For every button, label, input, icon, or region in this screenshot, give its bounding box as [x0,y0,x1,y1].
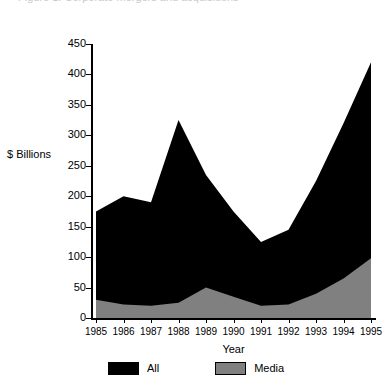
y-axis-tick-label: 100 [26,251,86,262]
y-axis-tick-labels: 050100150200250300350400450 [20,44,86,319]
legend-swatch-media [215,362,246,375]
chart-legend: AllMedia [0,362,392,375]
y-axis-tick-label: 300 [26,129,86,140]
x-axis-tick-label: 1995 [353,326,389,338]
legend-label: All [147,363,159,374]
y-axis-tick-label: 250 [26,160,86,171]
y-axis-tick-label: 350 [26,99,86,110]
y-axis-tick-label: 0 [26,312,86,323]
y-axis-tick-label: 150 [26,221,86,232]
y-axis-tick-label: 200 [26,190,86,201]
series-areas [92,44,375,320]
clipped-header-text: Figure 1. Corporate mergers and acquisit… [0,0,392,9]
legend-label: Media [254,363,284,374]
legend-item: Media [215,362,284,375]
chart-figure: Figure 1. Corporate mergers and acquisit… [0,0,392,387]
x-axis-title: Year [92,343,375,355]
y-axis-tick-label: 50 [26,282,86,293]
plot-area: 050100150200250300350400450 198519861987… [92,44,375,318]
y-axis-tick-label: 450 [26,38,86,49]
y-axis-tick-label: 400 [26,68,86,79]
legend-item: All [108,362,159,375]
clipped-header-label: Figure 1. Corporate mergers and acquisit… [18,0,239,3]
legend-swatch-all [108,362,139,375]
area-series-all [96,62,371,318]
